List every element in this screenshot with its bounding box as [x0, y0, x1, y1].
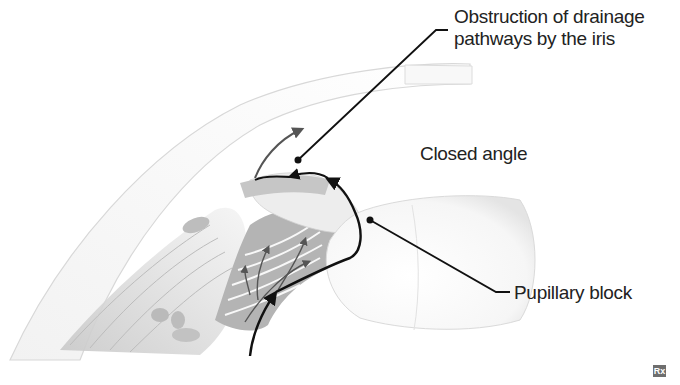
obstruction-leader-dot — [295, 157, 302, 164]
pupillary-block-label: Pupillary block — [514, 282, 632, 304]
rx-logo-icon: Rx — [653, 365, 666, 377]
obstruction-label-line1: Obstruction of drainage — [454, 6, 645, 28]
obstruction-label: Obstruction of drainage pathways by the … — [454, 6, 645, 50]
pupillary-leader-dot — [367, 217, 374, 224]
closed-angle-label: Closed angle — [420, 143, 527, 165]
obstruction-label-line2: pathways by the iris — [454, 28, 645, 50]
eye-angle-diagram — [0, 0, 680, 385]
